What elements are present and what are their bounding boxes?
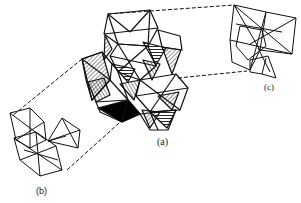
polyhedra-diagram [0, 0, 301, 203]
label-a: (a) [157, 137, 168, 147]
structure-a [82, 10, 188, 130]
structure-c [230, 5, 296, 78]
label-c: (c) [264, 83, 274, 92]
structure-b [10, 108, 80, 176]
label-b: (b) [36, 187, 47, 196]
